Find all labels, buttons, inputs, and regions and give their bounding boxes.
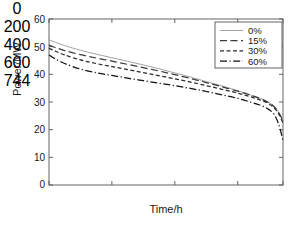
y-tick-label-20: 20: [25, 124, 45, 135]
x-axis-label: Time/h: [49, 203, 283, 215]
y-tick-label-30: 30: [25, 97, 45, 108]
y-tick-label-40: 40: [25, 69, 45, 80]
y-tick-label-10: 10: [25, 152, 45, 163]
y-tick-label-50: 50: [25, 42, 45, 53]
y-tick-label-0: 0: [25, 179, 45, 190]
chart-canvas: 0%15%30%60%: [0, 0, 305, 225]
figure: 0%15%30%60% Power/MW Time/h 0 10 20 30 4…: [0, 0, 305, 225]
y-axis-label: Power/MW: [11, 19, 25, 119]
legend-label-60pct: 60%: [248, 56, 268, 67]
legend[interactable]: 0%15%30%60%: [215, 22, 282, 68]
y-tick-label-60: 60: [25, 14, 45, 25]
